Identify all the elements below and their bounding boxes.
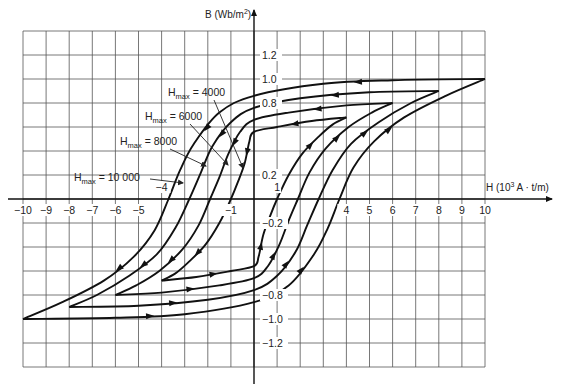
x-axis-title: H (103 A · t/m) bbox=[486, 181, 549, 193]
x-tick-label: 8 bbox=[436, 204, 442, 216]
x-tick-label: −6 bbox=[109, 204, 121, 216]
x-tick-label: 6 bbox=[390, 204, 396, 216]
x-tick-label: 1 bbox=[274, 181, 280, 193]
hmax-annotation-label: Hmax = 6000 bbox=[145, 110, 202, 125]
x-tick-label: 7 bbox=[413, 204, 419, 216]
y-tick-label: 1.2 bbox=[262, 49, 277, 61]
y-tick-label: 0.8 bbox=[262, 97, 277, 109]
x-tick-label: 5 bbox=[367, 204, 373, 216]
x-tick-label: 4 bbox=[343, 204, 349, 216]
x-tick-label: −8 bbox=[63, 204, 75, 216]
y-tick-label: −1.0 bbox=[262, 313, 283, 325]
direction-arrow-icon bbox=[146, 313, 154, 319]
y-tick-label: −1.2 bbox=[262, 337, 283, 349]
x-tick-label: −4 bbox=[156, 181, 168, 193]
y-axis-title: B (Wb/m2) bbox=[205, 8, 251, 20]
direction-arrow-icon bbox=[354, 79, 362, 85]
x-tick-label: −10 bbox=[14, 204, 32, 216]
hmax-annotation-label: Hmax = 10 000 bbox=[74, 171, 140, 186]
annotation-leader-arrow bbox=[170, 149, 206, 166]
y-tick-label: 1.0 bbox=[262, 73, 277, 85]
hmax-annotation-label: Hmax = 8000 bbox=[120, 135, 177, 150]
hmax-annotation-label: Hmax = 4000 bbox=[168, 86, 225, 101]
x-tick-label: 9 bbox=[459, 204, 465, 216]
y-tick-label: −0.2 bbox=[262, 217, 283, 229]
direction-arrow-icon bbox=[331, 92, 339, 99]
direction-arrow-icon bbox=[169, 299, 177, 306]
x-tick-label: 10 bbox=[479, 204, 491, 216]
x-tick-label: −5 bbox=[133, 204, 145, 216]
x-tick-label: −1 bbox=[225, 204, 237, 216]
hysteresis-chart: −10−9−8−7−6−5−4−11456789101.21.00.80.2−0… bbox=[0, 0, 567, 389]
x-tick-label: −7 bbox=[86, 204, 98, 216]
annotations: Hmax = 10 000Hmax = 8000Hmax = 6000Hmax … bbox=[74, 86, 243, 186]
y-tick-label: 0.2 bbox=[262, 169, 277, 181]
x-tick-label: −9 bbox=[40, 204, 52, 216]
y-tick-label: −0.8 bbox=[262, 289, 283, 301]
